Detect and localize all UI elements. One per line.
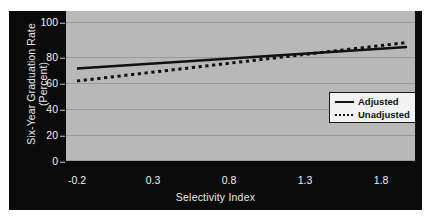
x-tick-label: 1.8 (374, 174, 389, 186)
y-tick-mark (60, 57, 65, 58)
figure-panel: Six-Year Graduation Rate (Percent) 0 20 … (9, 11, 422, 210)
y-tick-mark (60, 22, 65, 23)
y-tick-mark (60, 109, 65, 110)
y-tick-label: 0 (23, 156, 65, 167)
y-tick-mark (60, 161, 65, 162)
chart-screenshot: Six-Year Graduation Rate (Percent) 0 20 … (0, 0, 431, 221)
legend-item-adjusted[interactable]: Adjusted (335, 96, 412, 108)
y-tick-text: 100 (40, 16, 58, 28)
legend-line-solid-icon (335, 97, 354, 107)
x-tick-label: 0.8 (222, 174, 237, 186)
legend: Adjusted Unadjusted (329, 92, 415, 123)
y-tick-text: 20 (46, 129, 58, 141)
y-tick-text: 60 (46, 77, 58, 89)
series-line-unadjusted (77, 43, 407, 82)
y-tick-mark (60, 135, 65, 136)
plot-svg (66, 11, 415, 161)
y-tick-mark (60, 83, 65, 84)
x-tick-label: -0.2 (68, 174, 86, 186)
y-tick-label: 100 (23, 17, 65, 28)
x-tick-label: 1.3 (298, 174, 313, 186)
y-tick-label: 80 (23, 52, 65, 63)
x-axis-title: Selectivity Index (9, 191, 422, 203)
legend-item-unadjusted[interactable]: Unadjusted (335, 109, 412, 121)
legend-line-dotted-icon (335, 110, 354, 120)
y-tick-label: 60 (23, 78, 65, 89)
x-axis-tick-labels: -0.2 0.3 0.8 1.3 1.8 (9, 174, 422, 190)
y-tick-text: 40 (46, 103, 58, 115)
y-tick-label: 20 (23, 130, 65, 141)
y-tick-text: 80 (46, 51, 58, 63)
y-tick-label: 40 (23, 104, 65, 115)
x-tick-label: 0.3 (146, 174, 161, 186)
plot-area: Adjusted Unadjusted (66, 11, 415, 161)
legend-label: Unadjusted (358, 110, 410, 120)
legend-label: Adjusted (358, 97, 399, 107)
y-tick-text: 0 (52, 155, 58, 167)
